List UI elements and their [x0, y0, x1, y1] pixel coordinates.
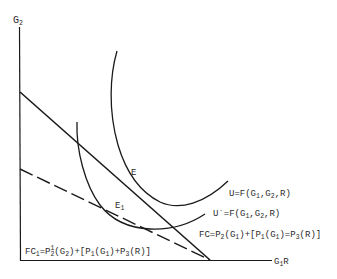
budget-line-fc1-label: FC1=P12(G2)+[P1(G1)+P3(R)]: [25, 245, 151, 258]
budget-line-fc-label: FC=P2(G1)+[P1(G1)=P3(R)]: [199, 230, 321, 241]
indifference-curve-u-prime: [77, 122, 205, 229]
curve-u-prime-label: U´=F(G1,G2,R): [213, 209, 280, 220]
curve-u-label: U=F(G1,G2,R): [229, 189, 291, 200]
indifference-curve-diagram: G2 G1R E E1 U=F(G1,G2,R) U´=F(G1,G2,R) F…: [0, 0, 337, 279]
point-e1-label: E1: [115, 201, 124, 212]
indifference-curve-u: [111, 51, 228, 206]
y-axis-label: G2: [13, 15, 23, 27]
point-e-label: E: [131, 168, 136, 178]
budget-line-fc: [20, 92, 210, 260]
y-axis: [20, 27, 21, 261]
x-axis-label: G1R: [274, 257, 289, 268]
